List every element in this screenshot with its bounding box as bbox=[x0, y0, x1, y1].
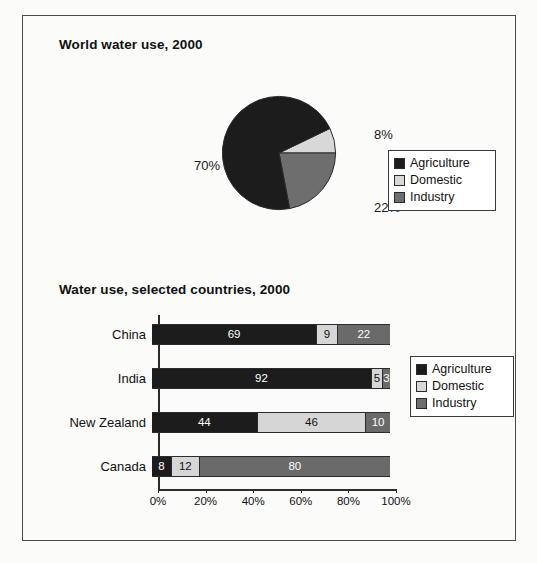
legend-label-domestic: Domestic bbox=[432, 380, 484, 393]
x-tick-label-60: 60% bbox=[289, 495, 312, 507]
bar-segment-agriculture: 92 bbox=[152, 369, 371, 388]
legend-swatch-industry-icon bbox=[416, 398, 427, 409]
legend-label-agriculture: Agriculture bbox=[410, 157, 470, 170]
legend-label-agriculture: Agriculture bbox=[432, 363, 492, 376]
bar-segment-domestic: 5 bbox=[371, 369, 383, 388]
bar-row-canada: Canada 8 12 80 bbox=[58, 455, 458, 477]
bar-track-canada: 8 12 80 bbox=[152, 456, 390, 477]
bar-category-label-india: India bbox=[58, 371, 152, 386]
legend-item-industry: Industry bbox=[416, 395, 506, 412]
pie-label-agriculture: 70% bbox=[194, 158, 220, 173]
bar-track-china: 69 9 22 bbox=[152, 324, 390, 345]
bar-segment-domestic: 9 bbox=[316, 325, 337, 344]
pie-chart-graphic bbox=[221, 95, 337, 211]
bar-chart-x-axis bbox=[158, 489, 396, 491]
legend-item-domestic: Domestic bbox=[394, 172, 488, 189]
bar-row-new-zealand: New Zealand 44 46 10 bbox=[58, 411, 458, 433]
bar-segment-domestic: 12 bbox=[171, 457, 200, 476]
bar-chart-plot-area: China 69 9 22 India 92 5 3 New Zealand 4… bbox=[58, 315, 458, 520]
x-tick-100 bbox=[396, 489, 397, 493]
legend-label-industry: Industry bbox=[410, 191, 454, 204]
bar-category-label-new-zealand: New Zealand bbox=[58, 415, 152, 430]
legend-item-agriculture: Agriculture bbox=[416, 361, 506, 378]
x-tick-40 bbox=[253, 489, 254, 493]
x-tick-80 bbox=[348, 489, 349, 493]
legend-swatch-agriculture-icon bbox=[394, 158, 405, 169]
legend-label-domestic: Domestic bbox=[410, 174, 462, 187]
legend-swatch-domestic-icon bbox=[416, 381, 427, 392]
bar-row-china: China 69 9 22 bbox=[58, 323, 458, 345]
bar-segment-agriculture: 8 bbox=[152, 457, 171, 476]
x-tick-0 bbox=[158, 489, 159, 493]
bar-track-new-zealand: 44 46 10 bbox=[152, 412, 390, 433]
bar-row-india: India 92 5 3 bbox=[58, 367, 458, 389]
x-tick-label-0: 0% bbox=[150, 495, 167, 507]
legend-swatch-agriculture-icon bbox=[416, 364, 427, 375]
legend-item-domestic: Domestic bbox=[416, 378, 506, 395]
x-tick-label-20: 20% bbox=[194, 495, 217, 507]
legend-swatch-domestic-icon bbox=[394, 175, 405, 186]
bar-category-label-china: China bbox=[58, 327, 152, 342]
pie-label-domestic: 8% bbox=[374, 127, 393, 142]
bar-track-india: 92 5 3 bbox=[152, 368, 390, 389]
pie-chart-legend: Agriculture Domestic Industry bbox=[388, 150, 496, 211]
pie-svg bbox=[221, 95, 337, 211]
x-tick-label-40: 40% bbox=[242, 495, 265, 507]
bar-chart-legend: Agriculture Domestic Industry bbox=[410, 356, 514, 417]
x-tick-label-100: 100% bbox=[381, 495, 410, 507]
bar-segment-industry: 3 bbox=[383, 369, 390, 388]
pie-chart-title: World water use, 2000 bbox=[59, 37, 203, 52]
x-tick-label-80: 80% bbox=[337, 495, 360, 507]
legend-item-agriculture: Agriculture bbox=[394, 155, 488, 172]
legend-label-industry: Industry bbox=[432, 397, 476, 410]
bar-segment-agriculture: 69 bbox=[152, 325, 316, 344]
x-tick-20 bbox=[206, 489, 207, 493]
bar-segment-industry: 10 bbox=[366, 413, 390, 432]
bar-category-label-canada: Canada bbox=[58, 459, 152, 474]
legend-item-industry: Industry bbox=[394, 189, 488, 206]
bar-segment-industry: 22 bbox=[338, 325, 390, 344]
pie-chart-block: World water use, 2000 70% 8% 22% Agricul… bbox=[22, 15, 516, 270]
bar-segment-industry: 80 bbox=[200, 457, 390, 476]
bar-segment-domestic: 46 bbox=[257, 413, 366, 432]
bar-segment-agriculture: 44 bbox=[152, 413, 257, 432]
x-tick-60 bbox=[301, 489, 302, 493]
legend-swatch-industry-icon bbox=[394, 192, 405, 203]
bar-chart-title: Water use, selected countries, 2000 bbox=[59, 282, 290, 297]
